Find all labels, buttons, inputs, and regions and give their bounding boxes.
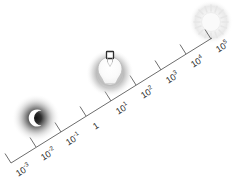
crescent-moon-icon — [12, 94, 60, 142]
tick-label-1e2: 102 — [138, 84, 156, 101]
light-bulb-icon — [86, 49, 134, 97]
diagram-canvas: 10-3 10-2 10-1 1 101 102 103 104 — [0, 0, 242, 189]
tick-label-1e4: 104 — [188, 53, 206, 70]
tick-label-1e-2: 10-2 — [38, 145, 57, 163]
svg-text:104: 104 — [188, 53, 206, 70]
svg-text:101: 101 — [113, 100, 131, 117]
svg-text:10-2: 10-2 — [38, 145, 57, 163]
svg-text:10-1: 10-1 — [63, 130, 82, 148]
svg-text:103: 103 — [163, 69, 181, 86]
tick-label-1e-3: 10-3 — [13, 161, 32, 179]
illuminance-scale-figure: 10-3 10-2 10-1 1 101 102 103 104 — [0, 0, 242, 189]
svg-text:1: 1 — [91, 120, 101, 131]
tick-label-1e3: 103 — [163, 69, 181, 86]
tick-label-1e-1: 10-1 — [63, 130, 82, 148]
svg-text:102: 102 — [138, 84, 156, 101]
svg-text:10-3: 10-3 — [13, 161, 32, 179]
tick-label-1e0: 1 — [91, 120, 101, 131]
tick-label-1e1: 101 — [113, 100, 131, 117]
sun-icon — [189, 0, 233, 44]
